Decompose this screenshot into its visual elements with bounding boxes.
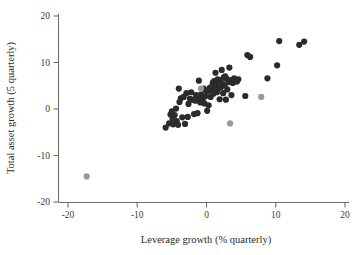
data-point (224, 86, 230, 92)
data-point (212, 70, 218, 76)
data-point (205, 102, 211, 108)
data-point (217, 96, 223, 102)
data-point (204, 108, 210, 114)
x-tick-label: -20 (62, 210, 75, 220)
x-tick-label: -10 (131, 210, 144, 220)
data-point (301, 38, 307, 44)
data-point (258, 94, 264, 100)
y-axis-title: Total asset growth (5 quarterly) (5, 41, 17, 174)
scatter-plot-figure: -20-1001020 -20-1001020 Leverage growth … (0, 0, 362, 255)
data-point (264, 75, 270, 81)
data-point (276, 38, 282, 44)
plot-canvas: -20-1001020 -20-1001020 Leverage growth … (0, 0, 362, 255)
x-tick-label: 10 (271, 210, 281, 220)
plot-background (0, 0, 362, 255)
data-point (242, 93, 248, 99)
data-point (274, 62, 280, 68)
data-point (182, 121, 188, 127)
data-point (226, 65, 232, 71)
data-point (223, 97, 229, 103)
data-point (172, 112, 178, 118)
data-point (196, 78, 202, 84)
x-tick-label: 20 (340, 210, 350, 220)
y-tick-label: -20 (37, 197, 50, 207)
data-point (173, 105, 179, 111)
data-point (235, 76, 241, 82)
data-point (219, 67, 225, 73)
y-tick-label: 0 (45, 104, 50, 114)
x-tick-label: 0 (204, 210, 209, 220)
data-point (176, 85, 182, 91)
data-point (84, 173, 90, 179)
data-point (185, 114, 191, 120)
y-tick-label: -10 (37, 151, 50, 161)
y-tick-label: 10 (41, 58, 51, 68)
data-point (198, 85, 204, 91)
data-point (247, 54, 253, 60)
data-point (227, 120, 233, 126)
data-point (175, 122, 181, 128)
y-tick-label: 20 (41, 11, 51, 21)
data-point (194, 110, 200, 116)
data-point (228, 92, 234, 98)
data-point (179, 114, 185, 120)
x-axis-title: Leverage growth (% quarterly) (141, 234, 272, 246)
